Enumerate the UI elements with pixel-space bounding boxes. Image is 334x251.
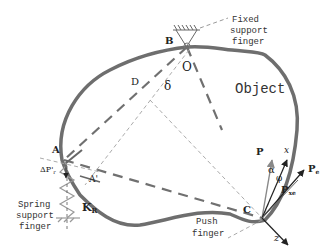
point-d-label: D bbox=[131, 76, 139, 87]
point-b-label: B bbox=[165, 35, 173, 46]
delta-p-label: ΔP'r bbox=[40, 165, 56, 175]
svg-text:support: support bbox=[230, 26, 268, 36]
p-force-label: P bbox=[256, 146, 264, 157]
fixed-support-label: Fixed support finger bbox=[230, 15, 268, 47]
svg-text:finger: finger bbox=[192, 229, 224, 239]
pe-label: Pe bbox=[308, 163, 320, 175]
alpha-label: α bbox=[268, 164, 275, 175]
svg-text:support: support bbox=[16, 211, 54, 221]
phi-label: φ bbox=[276, 173, 282, 183]
grasp-diagram: Fixed support finger Object Spring suppo… bbox=[0, 0, 334, 251]
object-label: Object bbox=[235, 81, 285, 97]
svg-text:Push: Push bbox=[196, 217, 218, 227]
svg-text:finger: finger bbox=[232, 37, 264, 47]
x-axis-label: x bbox=[284, 145, 289, 155]
object-outline bbox=[61, 47, 298, 226]
delta-label: δ bbox=[164, 79, 171, 93]
spring-support-label: Spring support finger bbox=[16, 200, 54, 232]
pxe-label: Pxe bbox=[281, 184, 296, 196]
svg-text:Spring: Spring bbox=[18, 200, 50, 210]
z-axis-label: z bbox=[273, 232, 280, 243]
svg-text:finger: finger bbox=[19, 222, 51, 232]
point-a-label: A bbox=[51, 144, 60, 155]
point-a-prime-label: A' bbox=[88, 174, 98, 184]
svg-text:Fixed: Fixed bbox=[232, 15, 259, 25]
spring-constant-label: KR bbox=[82, 201, 98, 215]
spring-icon bbox=[56, 160, 80, 230]
fixed-label-leader bbox=[200, 18, 228, 28]
dashed-lines bbox=[64, 47, 262, 218]
point-c-label: C bbox=[243, 204, 251, 215]
push-finger-label: Push finger bbox=[192, 217, 224, 239]
point-o-label: O bbox=[182, 60, 192, 74]
